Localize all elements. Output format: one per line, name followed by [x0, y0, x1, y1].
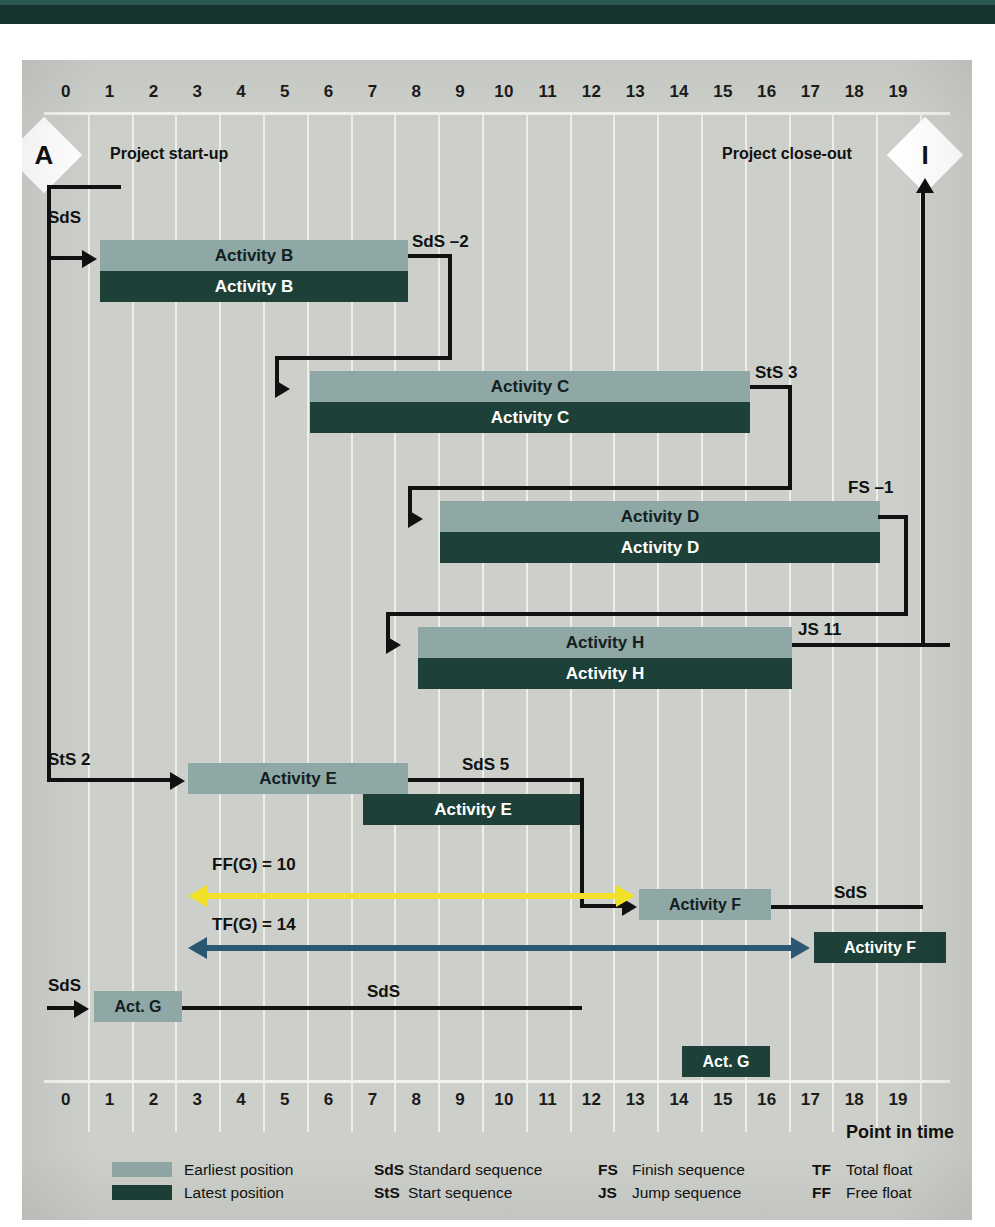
gridline — [613, 112, 615, 1132]
axis-tick-top: 13 — [615, 82, 655, 102]
axis-tick-top: 7 — [353, 82, 393, 102]
link-a-to-b-top — [47, 185, 121, 189]
gridline — [789, 112, 791, 1132]
axis-tick-bottom: 9 — [440, 1090, 480, 1110]
legend-swatch-earliest — [112, 1162, 172, 1177]
link-b-to-c-vertical — [448, 254, 452, 360]
axis-tick-top: 12 — [572, 82, 612, 102]
arrow-b-to-c — [275, 380, 290, 398]
bar-activity-f-earliest: Activity F — [639, 889, 771, 920]
total-float-label: TF(G) = 14 — [212, 915, 296, 935]
axis-tick-bottom: 2 — [134, 1090, 174, 1110]
axis-tick-bottom: 18 — [834, 1090, 874, 1110]
axis-tick-top: 15 — [703, 82, 743, 102]
axis-tick-bottom: 8 — [396, 1090, 436, 1110]
arrow-d-to-h — [386, 636, 401, 654]
bar-activity-b-earliest: Activity B — [100, 240, 408, 271]
bar-activity-e-latest: Activity E — [363, 794, 583, 825]
axis-tick-bottom: 15 — [703, 1090, 743, 1110]
legend-row: Latest position StS Start sequence JS Ju… — [112, 1181, 972, 1204]
total-float-arrow-left — [188, 937, 207, 959]
bar-activity-d-earliest: Activity D — [440, 501, 880, 532]
link-b-to-c-top — [408, 254, 452, 258]
total-float-line — [204, 945, 794, 951]
link-c-to-d-vertical — [788, 385, 792, 490]
node-start-caption: Project start-up — [110, 145, 228, 163]
free-float-label: FF(G) = 10 — [212, 855, 296, 875]
bar-activity-b-latest: Activity B — [100, 271, 408, 302]
link-e-to-f-top — [408, 778, 584, 782]
axis-tick-top: 2 — [134, 82, 174, 102]
arrow-a-to-e — [170, 772, 185, 790]
legend: Earliest position SdS Standard sequence … — [112, 1158, 972, 1204]
relation-label-g-to-f: SdS — [367, 982, 400, 1002]
axis-tick-top: 4 — [221, 82, 261, 102]
gridline — [701, 112, 703, 1132]
bar-activity-e-earliest: Activity E — [188, 763, 408, 794]
axis-tick-top: 16 — [747, 82, 787, 102]
link-g-to-f-horizontal — [182, 1006, 582, 1010]
gantt-network-diagram-page: 012345678910111213141516171819 012345678… — [0, 0, 995, 1227]
relation-label-e-to-f: SdS 5 — [462, 755, 509, 775]
gridline — [876, 112, 878, 1132]
legend-def-free-float: Free float — [846, 1184, 911, 1202]
free-float-arrow-left — [188, 885, 207, 907]
relation-label-b-to-c: SdS –2 — [412, 232, 469, 252]
gridline — [526, 112, 528, 1132]
axis-tick-top: 10 — [484, 82, 524, 102]
axis-tick-bottom: 19 — [878, 1090, 918, 1110]
link-d-to-h-vertical — [904, 515, 908, 616]
relation-label-f-to-i: SdS — [834, 883, 867, 903]
arrow-c-to-d — [408, 510, 423, 528]
node-start-letter: A — [17, 128, 71, 182]
arrow-a-to-b — [82, 250, 97, 268]
axis-tick-top: 11 — [528, 82, 568, 102]
free-float-arrow-right — [616, 885, 635, 907]
top-band-highlight — [0, 0, 995, 5]
axis-tick-bottom: 3 — [177, 1090, 217, 1110]
link-h-to-i-vertical — [921, 188, 925, 645]
axis-tick-bottom: 6 — [309, 1090, 349, 1110]
axis-tick-top: 9 — [440, 82, 480, 102]
gridline — [657, 112, 659, 1132]
link-e-to-f-vertical — [580, 778, 584, 908]
relation-label-h-to-i: JS 11 — [798, 620, 842, 640]
legend-abbr-js: JS — [598, 1184, 632, 1202]
link-b-to-c-bottom — [275, 356, 452, 360]
link-f-to-i-horizontal — [771, 905, 923, 909]
axis-tick-top: 6 — [309, 82, 349, 102]
bar-activity-d-latest: Activity D — [440, 532, 880, 563]
axis-tick-top: 17 — [791, 82, 831, 102]
relation-label-a-to-e: StS 2 — [48, 750, 91, 770]
legend-def-start-sequence: Start sequence — [408, 1184, 598, 1202]
node-end-caption: Project close-out — [722, 145, 852, 163]
axis-tick-top: 8 — [396, 82, 436, 102]
axis-caption: Point in time — [846, 1122, 954, 1143]
top-decorative-band — [0, 0, 995, 24]
node-end-letter: I — [898, 128, 952, 182]
relation-label-a-to-b: SdS — [48, 208, 81, 228]
total-float-arrow-right — [791, 937, 810, 959]
bar-activity-f-latest: Activity F — [814, 932, 946, 963]
axis-tick-bottom: 13 — [615, 1090, 655, 1110]
axis-tick-bottom: 4 — [221, 1090, 261, 1110]
axis-tick-bottom: 14 — [659, 1090, 699, 1110]
bar-activity-h-earliest: Activity H — [418, 627, 792, 658]
legend-abbr-sts: StS — [374, 1184, 408, 1202]
axis-tick-bottom: 5 — [265, 1090, 305, 1110]
axis-tick-bottom: 12 — [572, 1090, 612, 1110]
legend-abbr-sds: SdS — [374, 1161, 408, 1179]
legend-label-earliest: Earliest position — [184, 1161, 374, 1179]
legend-def-total-float: Total float — [846, 1161, 912, 1179]
axis-tick-top: 5 — [265, 82, 305, 102]
gridline — [745, 112, 747, 1132]
arrow-a-to-g — [74, 1000, 89, 1018]
axis-tick-bottom: 0 — [46, 1090, 86, 1110]
link-h-to-i-horizontal — [792, 643, 950, 647]
link-c-to-d-bottom — [408, 486, 792, 490]
link-d-to-h-bottom — [386, 612, 908, 616]
link-a-to-e-horizontal — [47, 778, 177, 782]
link-a-to-b-horizontal — [47, 256, 87, 260]
bar-activity-c-latest: Activity C — [310, 402, 750, 433]
gridline — [438, 112, 440, 1132]
